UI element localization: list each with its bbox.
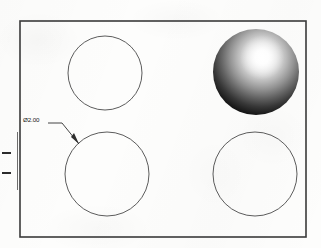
hole-bottom-left (65, 132, 149, 216)
left-edge-rule (17, 132, 18, 190)
edge-tick-upper (2, 152, 11, 154)
sphere-highlight-icon (213, 29, 299, 115)
drawing-canvas: Ø2.00 (0, 0, 321, 248)
engineering-drawing (0, 0, 321, 248)
leader-arrowhead-icon (71, 133, 79, 144)
diameter-dimension-label: Ø2.00 (23, 117, 39, 123)
edge-tick-lower (2, 172, 11, 174)
hole-top-left (68, 36, 142, 110)
dimension-leader-line (48, 123, 79, 144)
hole-bottom-right (213, 132, 297, 216)
